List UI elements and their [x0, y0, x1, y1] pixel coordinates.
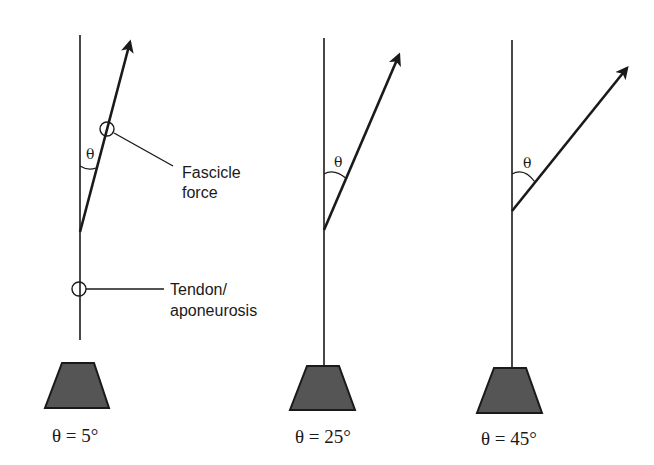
panel-caption: θ = 25° [295, 426, 351, 447]
panel-5deg: θ Fascicle force Tendon/ aponeurosis θ =… [45, 35, 257, 446]
fascicle-force-label-line2: force [182, 184, 218, 201]
angle-theta-label: θ [334, 154, 342, 170]
tendon-label-line2: aponeurosis [170, 302, 257, 319]
fascicle-force-arrow [324, 55, 399, 230]
weight-block [477, 368, 542, 413]
angle-arc [512, 172, 535, 182]
fascicle-force-arrow [512, 68, 627, 211]
weight-block [290, 366, 355, 410]
angle-theta-label: θ [86, 146, 94, 162]
tendon-label-line1: Tendon/ [170, 281, 227, 298]
weight-block [45, 363, 109, 408]
fascicle-force-label-line1: Fascicle [182, 164, 241, 181]
panel-25deg: θ θ = 25° [290, 38, 399, 447]
angle-arc [80, 166, 96, 169]
pennation-angle-diagram: θ Fascicle force Tendon/ aponeurosis θ =… [0, 0, 654, 465]
tendon-marker-circle [72, 282, 86, 296]
angle-arc [324, 172, 347, 179]
fascicle-leader-line [114, 133, 173, 166]
panel-45deg: θ θ = 45° [477, 40, 627, 449]
panel-caption: θ = 5° [52, 425, 98, 446]
panel-caption: θ = 45° [481, 428, 537, 449]
angle-theta-label: θ [523, 155, 531, 171]
